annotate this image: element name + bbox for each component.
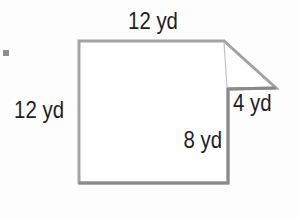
- label-top-side: 12 yd: [111, 9, 196, 33]
- label-flap-side: 4 yd: [233, 91, 300, 115]
- geometry-figure: 12 yd 12 yd 8 yd 4 yd: [0, 0, 300, 218]
- bullet-mark: [3, 50, 9, 56]
- label-right-lower-side: 8 yd: [137, 128, 222, 152]
- label-left-side: 12 yd: [10, 98, 64, 122]
